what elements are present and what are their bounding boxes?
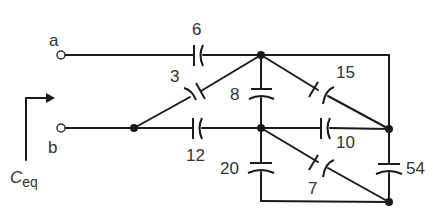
wire-c15-lower — [328, 96, 389, 129]
capacitor-c10 — [321, 118, 330, 139]
capacitor-c6 — [194, 45, 203, 66]
label-terminal-a: a — [49, 31, 59, 50]
label-c10: 10 — [336, 133, 355, 152]
wire-bottom — [261, 201, 389, 202]
node-b-junction — [130, 124, 138, 132]
node-middle — [257, 124, 265, 132]
label-c8: 8 — [230, 85, 239, 104]
wire-c15-upper — [261, 55, 318, 90]
capacitor-c12 — [193, 118, 202, 139]
circuit-diagram: a b Ceq 6 3 12 8 15 10 20 7 54 — [0, 0, 438, 216]
label-c20: 20 — [220, 159, 239, 178]
label-ceq-sub: eq — [22, 174, 38, 190]
label-c12: 12 — [186, 146, 205, 165]
label-c7: 7 — [308, 179, 317, 198]
node-bottom-right — [385, 198, 393, 206]
label-c54: 54 — [406, 159, 425, 178]
terminal-b[interactable] — [57, 124, 65, 132]
wire-c10-to-right-node — [330, 128, 389, 129]
label-terminal-b: b — [48, 138, 57, 157]
circuit-svg: a b Ceq 6 3 12 8 15 10 20 7 54 — [0, 0, 438, 216]
label-ceq-main: C — [10, 168, 23, 187]
label-ceq: Ceq — [10, 168, 38, 190]
label-c3: 3 — [170, 67, 179, 86]
label-c15: 15 — [336, 63, 355, 82]
terminal-a[interactable] — [57, 51, 65, 59]
node-right — [385, 125, 393, 133]
label-c6: 6 — [192, 20, 201, 39]
wire-c3-lower — [134, 97, 190, 128]
capacitor-c15 — [309, 82, 334, 104]
wire-c7-upper — [261, 128, 318, 162]
node-top — [257, 51, 265, 59]
